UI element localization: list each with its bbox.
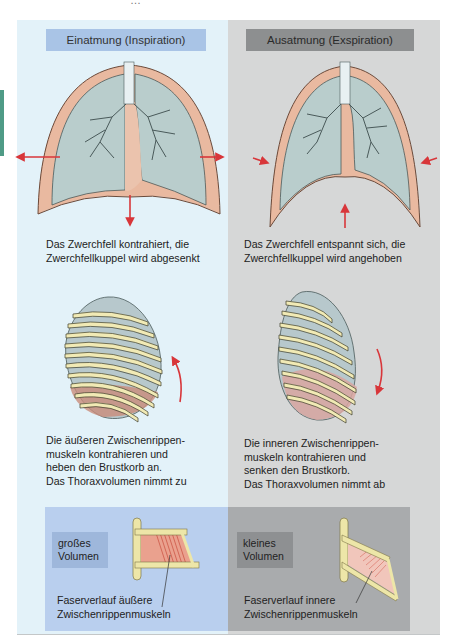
inspiration-intercostal-caption: Die äußeren Zwischenrippen- muskeln kont…: [46, 434, 187, 488]
expiration-diaphragm-caption: Das Zwerchfell entspannt sich, die Zwerc…: [244, 238, 405, 265]
ribs-raise-arrow: [174, 360, 181, 402]
lungs-inspiration-illustration: [30, 62, 230, 237]
expiration-title: Ausatmung (Exspiration): [246, 29, 414, 51]
inner-fiber-caption: Faserverlauf innere Zwischenrippenmuskel…: [244, 594, 358, 621]
outer-fiber-caption: Faserverlauf äußere Zwischenrippenmuskel…: [57, 594, 171, 621]
expiration-intercostal-caption: Die inneren Zwischenrippen- muskeln kont…: [244, 437, 385, 491]
large-volume-label: großes Volumen: [52, 532, 108, 568]
page-running-header: …: [0, 0, 451, 14]
ribcage-expiration-illustration: [272, 287, 402, 427]
inspiration-title: Einatmung (Inspiration): [46, 29, 206, 51]
small-volume-label: kleines Volumen: [237, 532, 293, 568]
running-header-text: …: [130, 0, 141, 6]
bottom-divider: [17, 634, 440, 635]
chapter-tab-marker: [0, 90, 4, 156]
ribs-lower-arrow: [377, 349, 382, 391]
lungs-expiration-illustration: [255, 62, 435, 237]
ribcage-inspiration-illustration: [58, 292, 188, 427]
inspiration-diaphragm-caption: Das Zwerchfell kontrahiert, die Zwerchfe…: [46, 238, 200, 265]
